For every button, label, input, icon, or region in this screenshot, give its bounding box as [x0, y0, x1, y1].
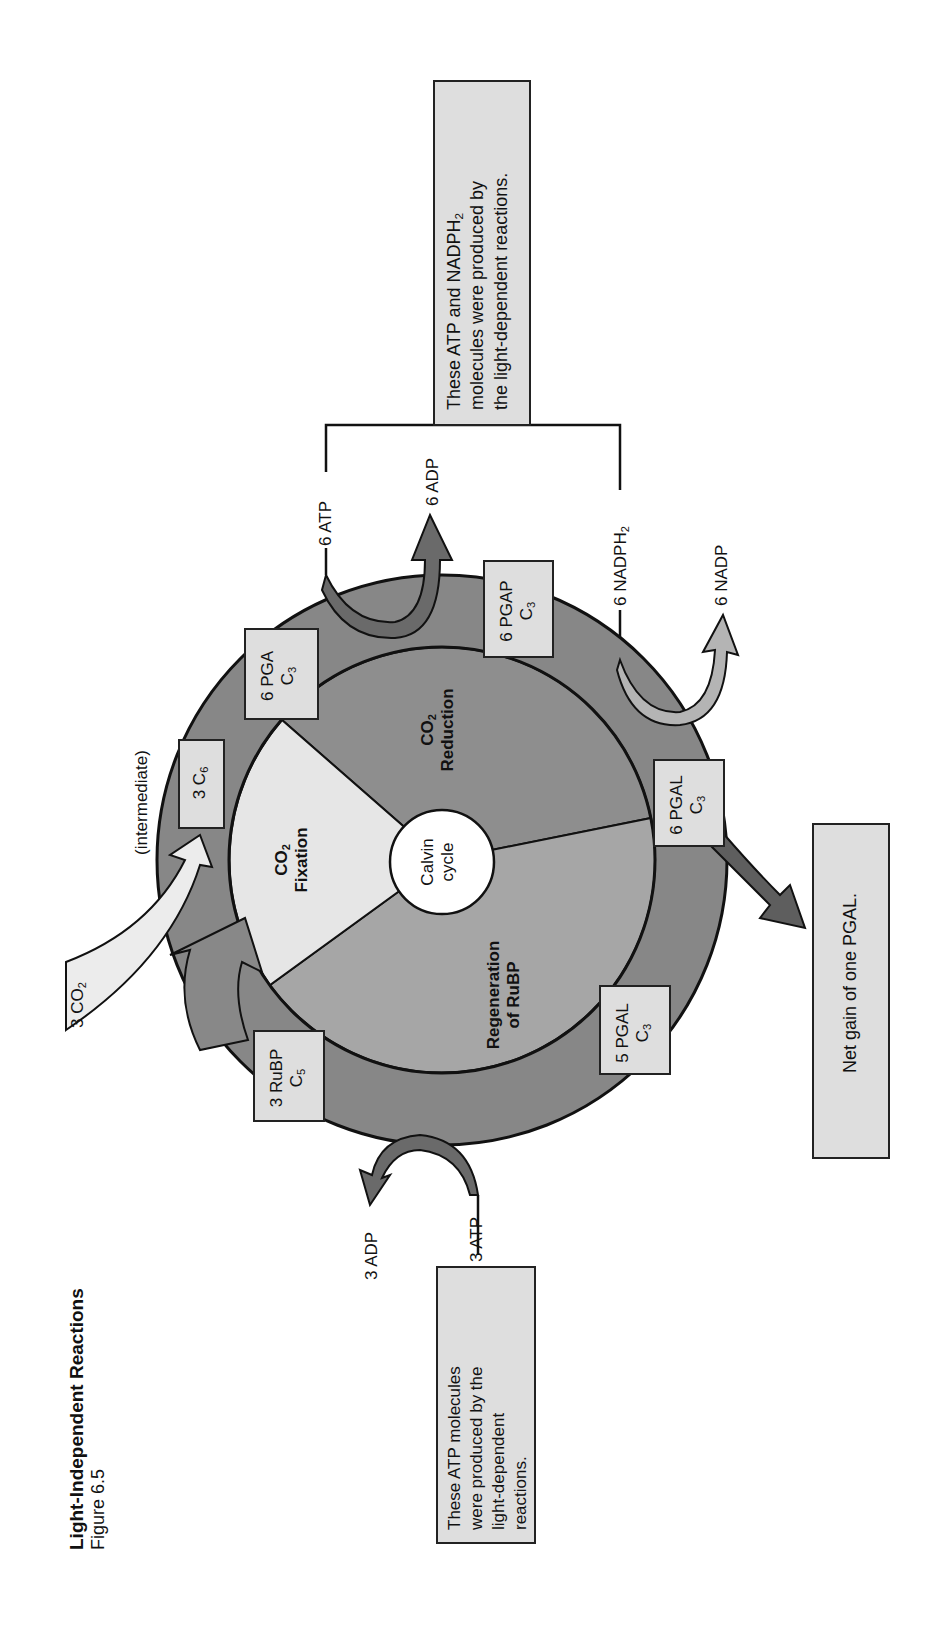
note-bottom-left: These ATP molecules were produced by the…	[436, 1266, 536, 1544]
label-co2-reduction: CO2 Reduction	[418, 680, 458, 780]
box-6pgal: 6 PGAL C3	[653, 759, 725, 847]
figure-title-block: Light-Independent Reactions Figure 6.5	[66, 1288, 109, 1550]
figure-number: Figure 6.5	[88, 1288, 109, 1550]
label-3co2: 3 CO2	[68, 982, 88, 1028]
label-6nadp: 6 NADP	[712, 545, 732, 606]
box-6pga: 6 PGA C3	[244, 628, 319, 720]
label-3atp: 3 ATP	[467, 1217, 487, 1262]
note-top-right: These ATP and NADPH2 molecules were prod…	[433, 80, 531, 426]
box-5pgal: 5 PGAL C3	[599, 985, 671, 1075]
label-6nadph2: 6 NADPH2	[611, 526, 631, 606]
label-6atp: 6 ATP	[316, 501, 336, 546]
label-co2-fixation: CO2 Fixation	[272, 815, 312, 905]
box-6pgap: 6 PGAP C3	[483, 560, 554, 658]
figure-title: Light-Independent Reactions	[66, 1288, 88, 1550]
label-6adp: 6 ADP	[423, 458, 443, 506]
label-regeneration-rubp: Regeneration of RuBP	[484, 930, 523, 1060]
note-net-gain: Net gain of one PGAL.	[812, 823, 890, 1159]
label-calvin-cycle: Calvin cycle	[418, 824, 457, 900]
label-3adp: 3 ADP	[362, 1232, 382, 1280]
label-intermediate: (intermediate)	[132, 750, 152, 855]
box-3rubp: 3 RuBP C5	[253, 1030, 325, 1122]
box-3c6: 3 C6	[178, 739, 225, 829]
